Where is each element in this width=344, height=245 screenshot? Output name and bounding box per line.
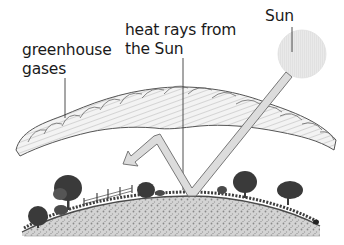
greenhouse-diagram: greenhouse gases heat rays from the Sun … xyxy=(0,0,344,245)
earth-surface xyxy=(22,171,320,236)
sun xyxy=(278,30,326,78)
heat-rays-label: heat rays from the Sun xyxy=(125,21,236,59)
greenhouse-label-line1: greenhouse xyxy=(22,41,112,60)
sun-label: Sun xyxy=(265,7,294,26)
greenhouse-gases-label: greenhouse gases xyxy=(22,41,112,79)
greenhouse-label-line2: gases xyxy=(22,60,112,79)
heat-label-line1: heat rays from xyxy=(125,21,236,40)
greenhouse-gas-layer xyxy=(16,86,336,156)
heat-label-line2: the Sun xyxy=(125,40,236,59)
